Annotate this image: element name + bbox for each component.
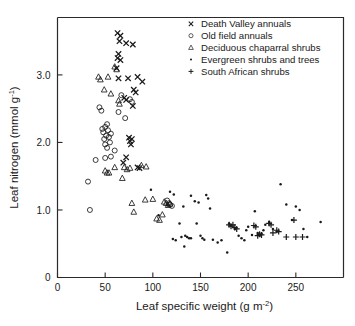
x-tick-label: 50	[100, 282, 112, 293]
data-point	[112, 148, 117, 153]
data-point	[107, 140, 112, 145]
data-point	[86, 179, 91, 184]
data-point	[112, 164, 118, 169]
data-point	[117, 38, 122, 43]
data-point	[319, 221, 322, 224]
x-axis-title: Leaf specific weight (g m-2)	[136, 299, 273, 312]
data-point	[220, 239, 223, 242]
data-point	[106, 128, 111, 133]
y-tick-label: 2.0	[37, 137, 51, 148]
data-point	[123, 40, 128, 45]
data-point	[306, 236, 309, 239]
data-point	[209, 207, 212, 210]
legend-marker-circle-marker	[189, 34, 193, 38]
y-axis-title: Leaf nitrogen (mmol g-1)	[7, 86, 20, 209]
data-point	[197, 201, 200, 204]
data-point	[117, 101, 123, 106]
legend-marker-dot-marker	[190, 58, 192, 60]
data-point	[251, 234, 254, 237]
data-point	[183, 245, 186, 248]
data-point	[150, 188, 153, 191]
y-tick-label: 3.0	[37, 70, 51, 81]
data-point	[237, 234, 240, 237]
data-point	[105, 74, 111, 79]
data-point	[203, 238, 206, 241]
data-point	[118, 33, 123, 38]
data-point	[190, 195, 193, 198]
data-point	[298, 209, 301, 212]
data-point	[283, 234, 289, 240]
y-tick-label: 0	[45, 272, 51, 283]
data-point	[182, 205, 185, 208]
data-point	[103, 155, 108, 160]
data-point	[119, 175, 125, 180]
data-point	[205, 194, 208, 197]
data-point	[245, 229, 248, 232]
legend-label: Old field annuals	[201, 30, 273, 41]
data-point	[101, 130, 106, 135]
data-point	[123, 116, 128, 121]
data-point	[157, 214, 160, 217]
data-point	[119, 93, 124, 98]
data-point	[178, 222, 181, 225]
data-point	[142, 197, 148, 202]
data-point	[180, 236, 183, 239]
data-point	[125, 76, 130, 81]
data-point	[226, 251, 229, 254]
data-point	[247, 226, 250, 229]
data-point	[195, 222, 198, 225]
data-point	[190, 237, 193, 240]
data-point	[174, 239, 177, 242]
data-point	[129, 200, 135, 205]
data-point	[133, 90, 138, 95]
legend-label: Deciduous chaparral shrubs	[201, 42, 321, 53]
data-point	[172, 238, 175, 241]
x-tick-label: 250	[287, 282, 304, 293]
legend-label: Death Valley annuals	[201, 18, 291, 29]
data-point	[116, 76, 121, 81]
data-point	[130, 42, 135, 47]
data-point	[279, 183, 282, 186]
plot-canvas: 01.02.03.0050100150200250Leaf specific w…	[0, 0, 355, 326]
data-point	[131, 209, 137, 214]
data-point	[212, 238, 215, 241]
legend-marker-x-marker	[189, 22, 193, 26]
data-point	[140, 79, 145, 84]
data-point	[262, 229, 265, 232]
data-point	[93, 157, 98, 162]
data-point	[293, 234, 299, 240]
data-point	[108, 91, 114, 96]
data-point	[160, 212, 166, 217]
legend-label: Evergreen shrubs and trees	[201, 54, 320, 65]
data-point	[270, 230, 276, 236]
data-point	[121, 160, 126, 165]
data-point	[118, 57, 123, 62]
data-point	[108, 154, 113, 159]
y-tick-label: 1.0	[37, 205, 51, 216]
scatter-plot-figure: 01.02.03.0050100150200250Leaf specific w…	[0, 0, 355, 326]
data-point	[243, 239, 246, 242]
data-point	[135, 74, 140, 79]
data-point	[116, 110, 121, 115]
legend-label: South African shrubs	[201, 66, 290, 77]
legend-marker-triangle-marker	[189, 45, 194, 49]
data-point	[169, 190, 172, 193]
data-point	[173, 193, 176, 196]
data-point	[291, 217, 297, 223]
data-point	[207, 197, 210, 200]
legend-marker-plus-marker	[189, 69, 194, 74]
x-tick-label: 100	[144, 282, 161, 293]
data-point	[87, 207, 92, 212]
data-point	[240, 237, 243, 240]
data-point	[199, 234, 202, 237]
data-point	[143, 164, 149, 169]
data-point	[166, 204, 169, 207]
data-point	[194, 200, 197, 203]
data-point	[295, 205, 298, 208]
x-tick-label: 0	[55, 282, 61, 293]
data-point	[300, 234, 306, 240]
data-point	[123, 155, 128, 160]
x-tick-label: 200	[240, 282, 257, 293]
data-point	[101, 87, 107, 92]
data-point	[150, 196, 156, 201]
